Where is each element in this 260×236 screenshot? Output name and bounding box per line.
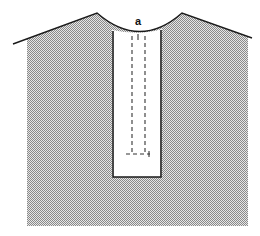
pattern-diagram <box>0 0 260 236</box>
point-a-label: a <box>135 15 141 27</box>
placket-opening <box>112 29 162 177</box>
